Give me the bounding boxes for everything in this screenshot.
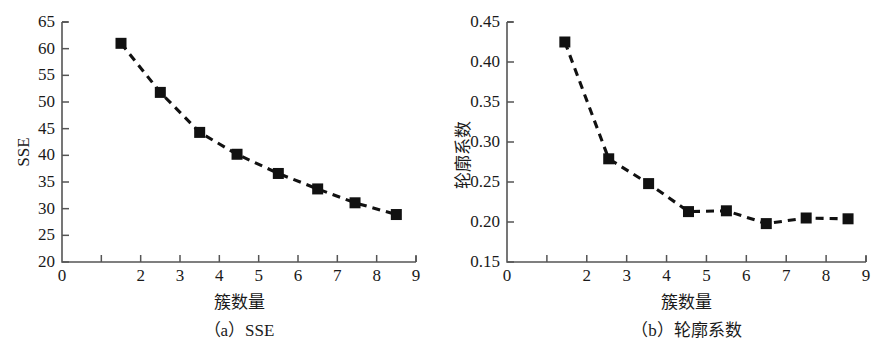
data-point-marker xyxy=(116,38,127,49)
y-tick-label: 30 xyxy=(0,199,55,219)
chart-panel-b: 轮廓系数 簇数量 （b）轮廓系数 0.150.200.250.300.350.4… xyxy=(435,0,870,355)
x-tick-label: 9 xyxy=(862,266,871,286)
x-axis-title-b: 簇数量 xyxy=(447,288,871,313)
data-point-marker xyxy=(643,178,654,189)
data-point-marker xyxy=(155,87,166,98)
data-point-marker xyxy=(194,127,205,138)
y-tick-label: 65 xyxy=(0,12,55,32)
x-tick-label: 7 xyxy=(333,266,342,286)
y-tick-label: 0.40 xyxy=(435,52,500,72)
data-point-marker xyxy=(603,153,614,164)
panel-caption-a: （a）SSE xyxy=(2,316,476,341)
data-point-marker xyxy=(232,149,243,160)
data-point-marker xyxy=(273,168,284,179)
data-point-marker xyxy=(843,213,854,224)
data-point-marker xyxy=(350,197,361,208)
data-point-marker xyxy=(761,218,772,229)
figure-root: SSE 簇数量 （a）SSE 2025303540455055606502345… xyxy=(0,0,871,355)
chart-panel-a: SSE 簇数量 （a）SSE 2025303540455055606502345… xyxy=(0,0,435,355)
data-point-marker xyxy=(312,183,323,194)
x-tick-label: 0 xyxy=(58,266,67,286)
y-tick-label: 0.20 xyxy=(435,212,500,232)
y-tick-label: 0.45 xyxy=(435,12,500,32)
data-point-marker xyxy=(801,213,812,224)
x-tick-label: 4 xyxy=(662,266,671,286)
data-point-marker xyxy=(391,209,402,220)
x-tick-label: 4 xyxy=(215,266,224,286)
y-tick-label: 40 xyxy=(0,145,55,165)
x-tick-label: 5 xyxy=(254,266,263,286)
y-tick-label: 55 xyxy=(0,65,55,85)
y-tick-label: 35 xyxy=(0,172,55,192)
y-tick-label: 0.30 xyxy=(435,132,500,152)
y-tick-label: 20 xyxy=(0,252,55,272)
x-tick-label: 0 xyxy=(503,266,512,286)
x-axis-title-a: 簇数量 xyxy=(2,288,476,313)
x-tick-label: 8 xyxy=(822,266,831,286)
x-tick-label: 5 xyxy=(702,266,711,286)
data-point-marker xyxy=(559,37,570,48)
x-tick-label: 3 xyxy=(176,266,185,286)
y-tick-label: 0.15 xyxy=(435,252,500,272)
x-tick-label: 7 xyxy=(782,266,791,286)
y-tick-label: 0.35 xyxy=(435,92,500,112)
panel-caption-b: （b）轮廓系数 xyxy=(447,316,871,341)
data-point-marker xyxy=(721,205,732,216)
x-tick-label: 6 xyxy=(294,266,303,286)
x-tick-label: 3 xyxy=(622,266,631,286)
x-tick-label: 2 xyxy=(136,266,145,286)
x-tick-label: 9 xyxy=(412,266,421,286)
y-tick-label: 25 xyxy=(0,225,55,245)
y-tick-label: 45 xyxy=(0,119,55,139)
x-tick-label: 6 xyxy=(742,266,751,286)
x-tick-label: 2 xyxy=(583,266,592,286)
y-tick-label: 0.25 xyxy=(435,172,500,192)
x-tick-label: 8 xyxy=(372,266,381,286)
y-tick-label: 50 xyxy=(0,92,55,112)
data-point-marker xyxy=(683,206,694,217)
y-tick-label: 60 xyxy=(0,39,55,59)
